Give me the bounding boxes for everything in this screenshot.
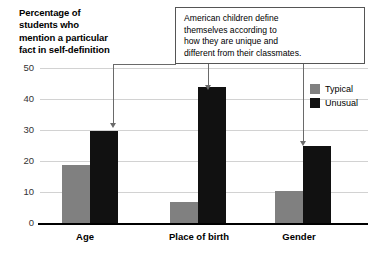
y-axis-tick-30: 30	[4, 125, 34, 135]
callout-arrow-place-of-birth	[205, 85, 211, 90]
y-axis-tick-0: 0	[4, 218, 34, 228]
bar-age-unusual	[90, 131, 118, 224]
callout-arrow-gender	[300, 141, 306, 146]
legend-label-unusual: Unusual	[325, 98, 358, 108]
y-axis-tick-50: 50	[4, 63, 34, 73]
y-axis-tick-40: 40	[4, 94, 34, 104]
chart-title-line-3: mention a particular	[19, 32, 169, 44]
annotation-callout: American children define themselves acco…	[175, 7, 365, 64]
chart-title-line-1: Percentage of	[19, 7, 169, 19]
annotation-line-1: American children define	[184, 13, 357, 25]
x-axis-label-age: Age	[47, 231, 123, 242]
bar-age-typical	[62, 165, 90, 224]
chart-legend: Typical Unusual	[310, 82, 358, 110]
x-axis-line	[38, 223, 368, 225]
bar-place-of-birth-typical	[170, 202, 198, 224]
annotation-line-3: how they are unique and	[184, 36, 357, 48]
legend-swatch-unusual-icon	[310, 98, 320, 108]
legend-label-typical: Typical	[325, 84, 353, 94]
x-axis-label-gender: Gender	[261, 231, 337, 242]
chart-title-line-2: students who	[19, 19, 169, 31]
legend-item-unusual: Unusual	[310, 96, 358, 110]
y-axis-tick-20: 20	[4, 156, 34, 166]
bar-gender-typical	[275, 191, 303, 224]
annotation-line-2: themselves according to	[184, 25, 357, 37]
chart-title-line-4: fact in self-definition	[19, 44, 169, 56]
bar-place-of-birth-unusual	[198, 87, 226, 224]
callout-leader-gender-vertical	[303, 64, 304, 142]
x-axis-label-place-of-birth: Place of birth	[150, 231, 248, 242]
annotation-line-4: different from their classmates.	[184, 48, 357, 60]
callout-leader-age-vertical	[113, 64, 114, 124]
callout-arrow-age	[110, 123, 116, 128]
chart-title: Percentage of students who mention a par…	[19, 7, 169, 57]
callout-leader-age-horizontal	[113, 64, 176, 65]
bar-group-age	[62, 68, 120, 224]
y-axis-tick-10: 10	[4, 187, 34, 197]
bar-gender-unusual	[303, 146, 331, 224]
callout-leader-place-of-birth-vertical	[208, 64, 209, 87]
legend-item-typical: Typical	[310, 82, 358, 96]
bar-group-place-of-birth	[170, 68, 228, 224]
legend-swatch-typical-icon	[310, 84, 320, 94]
bar-chart: Percentage of students who mention a par…	[0, 0, 379, 257]
